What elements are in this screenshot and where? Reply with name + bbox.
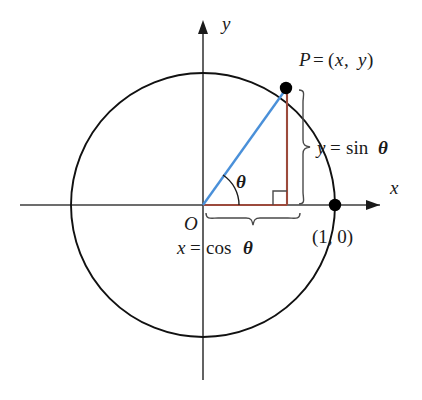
point-p-label-equals: =: [313, 49, 324, 70]
point-p-label-comma: ,: [344, 49, 349, 70]
sine-label-theta: θ: [378, 137, 388, 158]
sine-label-equals: =: [330, 137, 341, 158]
theta-angle-label: θ: [236, 171, 246, 192]
cosine-label-theta: θ: [243, 237, 253, 258]
unit-circle-diagram: x y θ P = ( x , y ) (1, 0) O y = sin θ x: [0, 0, 422, 400]
point-p-label-y: y: [356, 49, 367, 70]
point-p-dot: [280, 82, 292, 94]
point-unit-dot: [329, 199, 341, 211]
sine-label-y: y: [315, 137, 326, 158]
point-p-label: P = ( x , y ): [298, 49, 373, 71]
point-p-label-p: P: [298, 49, 311, 70]
point-p-label-x: x: [334, 49, 344, 70]
point-p-label-open-paren: (: [328, 49, 334, 71]
point-unit-label: (1, 0): [312, 226, 353, 248]
cosine-label-x: x: [176, 237, 186, 258]
cosine-label-equals: =: [190, 237, 201, 258]
origin-label: O: [184, 213, 198, 234]
sine-label-function: sin: [346, 137, 369, 158]
point-p-label-close-paren: ): [367, 49, 373, 71]
x-axis-label: x: [389, 177, 399, 198]
y-axis-label: y: [220, 13, 231, 34]
cosine-label-function: cos: [206, 237, 231, 258]
